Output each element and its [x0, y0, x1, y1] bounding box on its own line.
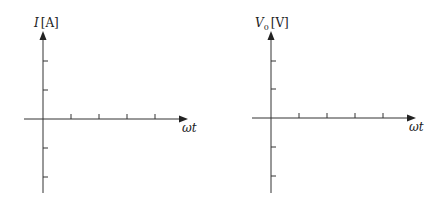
- y-axis-arrow-icon: [268, 31, 275, 40]
- voltage-chart: V0[V] ωt: [252, 16, 424, 193]
- current-chart: I[A] ωt: [24, 16, 197, 193]
- figure: I[A] ωt V0[V] ωt: [0, 0, 444, 207]
- x-ticks: [299, 113, 383, 118]
- y-axis-label: V0[V]: [255, 16, 289, 32]
- y-axis-arrow-icon: [40, 31, 47, 40]
- x-axis-label: ωt: [409, 120, 424, 134]
- y-axis-label: I[A]: [33, 16, 59, 30]
- x-axis-label: ωt: [182, 121, 197, 135]
- x-ticks: [71, 114, 155, 119]
